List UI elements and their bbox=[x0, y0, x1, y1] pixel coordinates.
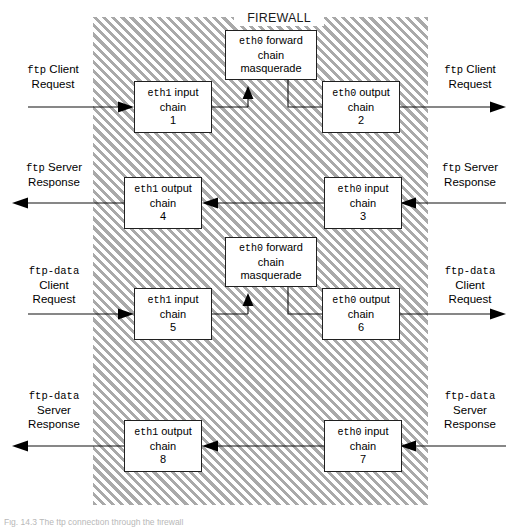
chain-number: 7 bbox=[360, 453, 366, 467]
chain-box-eth1-input-5[interactable]: eth1 input chain 5 bbox=[134, 288, 212, 340]
label-left-ftp-client-request: ftp Client Request bbox=[14, 62, 92, 91]
firewall-title: FIREWALL bbox=[234, 9, 324, 26]
chain-line2: chain bbox=[160, 308, 186, 322]
chain-box-eth1-input-1[interactable]: eth1 input chain 1 bbox=[134, 81, 212, 133]
chain-box-eth0-forward-masquerade-bottom[interactable]: eth0 forward chain masquerade bbox=[225, 237, 317, 287]
chain-line2: chain bbox=[348, 308, 374, 322]
forward-chain-line2: chain bbox=[258, 256, 284, 270]
chain-box-eth0-output-6[interactable]: eth0 output chain 6 bbox=[322, 288, 400, 340]
forward-chain-line1: eth0 forward bbox=[239, 241, 303, 256]
label-left-ftpdata-client-request: ftp-data Client Request bbox=[12, 264, 96, 306]
forward-chain-line3: masquerade bbox=[240, 62, 301, 76]
firewall-diagram: FIREWALL eth0 forward chain masquerade e… bbox=[0, 0, 519, 527]
chain-line2: chain bbox=[150, 440, 176, 454]
chain-line1: eth1 output bbox=[134, 425, 192, 440]
chain-box-eth0-forward-masquerade-top[interactable]: eth0 forward chain masquerade bbox=[225, 30, 317, 80]
label-right-ftpdata-client-request: ftp-data Client Request bbox=[428, 264, 512, 306]
label-left-ftp-server-response: ftp Server Response bbox=[12, 160, 96, 189]
chain-line2: chain bbox=[150, 197, 176, 211]
chain-line1: eth1 output bbox=[134, 182, 192, 197]
chain-number: 3 bbox=[360, 210, 366, 224]
chain-line1: eth0 input bbox=[338, 182, 389, 197]
chain-line2: chain bbox=[350, 440, 376, 454]
chain-number: 2 bbox=[358, 114, 364, 128]
forward-chain-line3: masquerade bbox=[240, 269, 301, 283]
chain-line1: eth1 input bbox=[148, 293, 199, 308]
chain-line2: chain bbox=[348, 101, 374, 115]
label-right-ftpdata-server-response: ftp-data Server Response bbox=[428, 389, 512, 431]
chain-line1: eth0 output bbox=[332, 293, 390, 308]
label-right-ftp-server-response: ftp Server Response bbox=[428, 160, 512, 189]
chain-number: 1 bbox=[170, 114, 176, 128]
chain-box-eth1-output-8[interactable]: eth1 output chain 8 bbox=[124, 420, 202, 472]
forward-chain-line2: chain bbox=[258, 49, 284, 63]
chain-number: 6 bbox=[358, 321, 364, 335]
chain-line1: eth0 output bbox=[332, 86, 390, 101]
chain-box-eth0-output-2[interactable]: eth0 output chain 2 bbox=[322, 81, 400, 133]
chain-number: 8 bbox=[160, 453, 166, 467]
label-left-ftpdata-server-response: ftp-data Server Response bbox=[12, 389, 96, 431]
chain-line2: chain bbox=[350, 197, 376, 211]
chain-line2: chain bbox=[160, 101, 186, 115]
chain-box-eth0-input-3[interactable]: eth0 input chain 3 bbox=[324, 177, 402, 229]
chain-number: 5 bbox=[170, 321, 176, 335]
chain-number: 4 bbox=[160, 210, 166, 224]
forward-chain-line1: eth0 forward bbox=[239, 34, 303, 49]
chain-line1: eth0 input bbox=[338, 425, 389, 440]
figure-caption: Fig. 14.3 The ftp connection through the… bbox=[4, 519, 244, 527]
label-right-ftp-client-request: ftp Client Request bbox=[430, 62, 510, 91]
chain-box-eth0-input-7[interactable]: eth0 input chain 7 bbox=[324, 420, 402, 472]
chain-box-eth1-output-4[interactable]: eth1 output chain 4 bbox=[124, 177, 202, 229]
chain-line1: eth1 input bbox=[148, 86, 199, 101]
